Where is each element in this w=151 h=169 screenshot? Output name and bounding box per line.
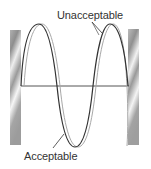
diagram-canvas bbox=[0, 0, 151, 169]
acceptable-label: Acceptable bbox=[24, 150, 77, 162]
standing-wave-diagram: Unacceptable Acceptable bbox=[0, 0, 151, 169]
unacceptable-label: Unacceptable bbox=[57, 9, 123, 21]
acceptable-leader-line bbox=[53, 134, 64, 148]
right-wall bbox=[128, 29, 139, 145]
left-wall bbox=[10, 30, 21, 145]
